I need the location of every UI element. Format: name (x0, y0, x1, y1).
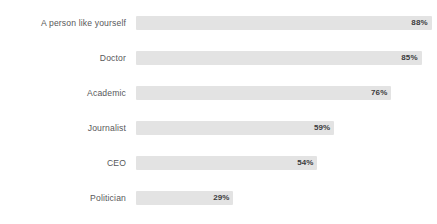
bar-track: 85% (136, 51, 437, 65)
bar-row: Politician29% (0, 191, 437, 205)
bar-fill (136, 156, 317, 170)
bar-row: Doctor85% (0, 51, 437, 65)
bar-track: 29% (136, 191, 437, 205)
bar-category-label: Politician (0, 191, 126, 205)
bar-category-label: Academic (0, 86, 126, 100)
bar-value-label: 54% (291, 156, 313, 170)
bar-fill (136, 51, 422, 65)
bar-value-label: 29% (207, 191, 229, 205)
bar-category-label: Journalist (0, 121, 126, 135)
bar-track: 76% (136, 86, 437, 100)
bar-category-label: Doctor (0, 51, 126, 65)
bar-track: 88% (136, 16, 437, 30)
bar-value-label: 85% (396, 51, 418, 65)
bar-value-label: 76% (365, 86, 387, 100)
bar-category-label: CEO (0, 156, 126, 170)
bar-value-label: 59% (308, 121, 330, 135)
bar-track: 59% (136, 121, 437, 135)
bar-row: A person like yourself88% (0, 16, 437, 30)
bar-fill (136, 16, 432, 30)
bar-fill (136, 86, 391, 100)
bar-row: CEO54% (0, 156, 437, 170)
bar-row: Academic76% (0, 86, 437, 100)
bar-value-label: 88% (406, 16, 428, 30)
bar-category-label: A person like yourself (0, 16, 126, 30)
bar-row: Journalist59% (0, 121, 437, 135)
bar-track: 54% (136, 156, 437, 170)
horizontal-bar-chart: A person like yourself88%Doctor85%Academ… (0, 0, 437, 224)
bar-fill (136, 121, 334, 135)
